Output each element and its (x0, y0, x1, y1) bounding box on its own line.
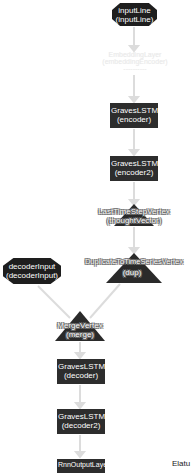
node-label: decoderInput (3, 262, 61, 271)
node-decoder2[interactable]: GravesLSTM (decoder2) (57, 409, 105, 434)
status-text: Elatu (172, 459, 190, 468)
node-sublabel: (embeddingEncoder) (96, 58, 174, 65)
node-sublabel: (decoder2) (58, 421, 104, 430)
node-label: MergeVertex (40, 321, 120, 330)
node-sublabel: (thoughtVector) (84, 216, 184, 225)
node-label: GravesLSTM (58, 412, 104, 421)
node-label: GravesLSTM (111, 106, 157, 115)
node-sublabel: (decoder) (58, 371, 104, 380)
node-label: GravesLSTM (58, 362, 104, 371)
node-decoderinput[interactable]: decoderInput (decoderInput) (3, 258, 61, 284)
node-label: RnnOutputLayer (58, 460, 104, 469)
node-inputline[interactable]: inputLine (inputLine) (112, 3, 157, 26)
node-sublabel: (decoderInput) (3, 271, 61, 280)
node-label: GravesLSTM (111, 159, 157, 168)
node-sublabel: (encoder) (111, 115, 157, 124)
node-label: inputLine (112, 6, 157, 15)
node-output[interactable]: RnnOutputLayer (57, 459, 105, 473)
node-label: LastTimeStepVertex (84, 207, 184, 216)
node-sublabel: (encoder2) (111, 168, 157, 177)
node-encoder2[interactable]: GravesLSTM (encoder2) (110, 156, 158, 181)
node-encoder[interactable]: GravesLSTM (encoder) (110, 103, 158, 128)
node-merge[interactable]: MergeVertex (merge) (40, 321, 120, 341)
node-sublabel: (dup) (70, 268, 194, 277)
node-label: EmbeddingLayer (96, 51, 174, 58)
node-embedding[interactable]: EmbeddingLayer (embeddingEncoder) ------… (96, 51, 174, 75)
node-extra: ---------- (96, 65, 174, 72)
node-decoder[interactable]: GravesLSTM (decoder) (57, 359, 105, 384)
node-sublabel: (inputLine) (112, 15, 157, 24)
node-dup[interactable]: DuplicateToTimeSeriesVertex (dup) (74, 257, 194, 279)
node-sublabel: (merge) (40, 330, 120, 339)
node-thoughtvector[interactable]: LastTimeStepVertex (thoughtVector) (84, 207, 184, 227)
node-label: DuplicateToTimeSeriesVertex (74, 257, 194, 266)
